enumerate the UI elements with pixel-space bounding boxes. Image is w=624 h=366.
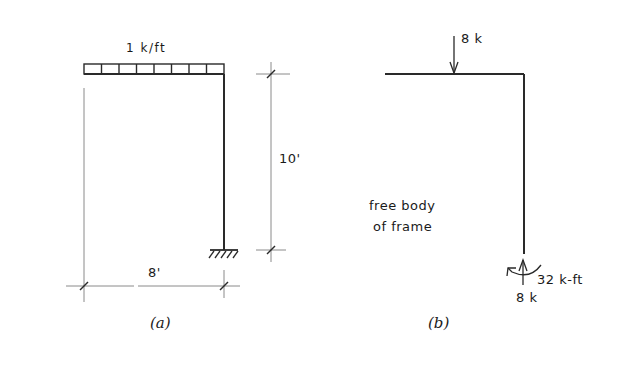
free-body-title-line2: of frame [373,220,432,233]
diagram-canvas: 1 k/ft 10' 8' (a) 8 k free body of frame… [0,0,624,366]
fixed-support-icon [209,250,238,258]
caption-b: (b) [428,316,449,331]
distributed-load-label: 1 k/ft [126,42,166,54]
figure-a [66,62,290,302]
reaction-moment-label: 32 k-ft [537,273,583,286]
applied-load-arrow-icon [450,36,458,73]
applied-load-label: 8 k [461,32,482,45]
caption-a: (a) [150,316,171,331]
free-body-title-line1: free body [369,199,435,212]
reaction-force-arrow-icon [519,260,527,285]
reaction-moment-arrow-icon [507,265,541,276]
span-dimension-label: 8' [148,266,161,279]
reaction-force-label: 8 k [516,291,537,304]
figure-b [385,36,541,285]
distributed-load-icon [84,64,224,74]
height-dimension-label: 10' [279,152,301,165]
frame-diagram-svg [0,0,624,366]
